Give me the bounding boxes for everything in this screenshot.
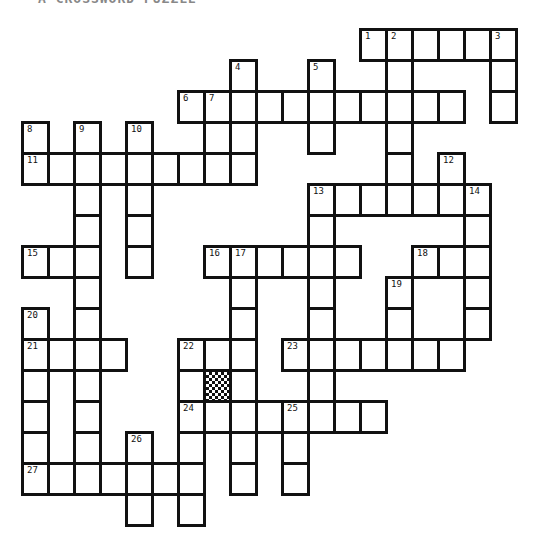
crossword-cell[interactable]: 14	[463, 183, 492, 217]
crossword-cell[interactable]	[385, 59, 414, 93]
crossword-cell[interactable]	[307, 369, 336, 403]
crossword-cell[interactable]	[73, 183, 102, 217]
crossword-cell[interactable]	[255, 245, 284, 279]
crossword-cell[interactable]	[177, 493, 206, 527]
crossword-cell[interactable]	[463, 307, 492, 341]
crossword-cell[interactable]	[99, 338, 128, 372]
crossword-cell[interactable]	[333, 400, 362, 434]
crossword-cell[interactable]	[73, 400, 102, 434]
crossword-cell[interactable]	[333, 245, 362, 279]
crossword-cell[interactable]	[281, 431, 310, 465]
crossword-cell[interactable]	[359, 90, 388, 124]
crossword-cell[interactable]: 2	[385, 28, 414, 62]
crossword-cell[interactable]	[281, 245, 310, 279]
crossword-cell[interactable]	[229, 90, 258, 124]
crossword-cell[interactable]	[359, 183, 388, 217]
crossword-cell[interactable]: 11	[21, 152, 50, 186]
crossword-cell[interactable]: 23	[281, 338, 310, 372]
crossword-cell[interactable]	[411, 90, 440, 124]
crossword-cell[interactable]	[151, 462, 180, 496]
crossword-cell[interactable]	[255, 400, 284, 434]
crossword-cell[interactable]	[125, 462, 154, 496]
crossword-cell[interactable]	[411, 28, 440, 62]
crossword-cell[interactable]	[411, 338, 440, 372]
crossword-cell[interactable]	[255, 90, 284, 124]
crossword-cell[interactable]	[385, 121, 414, 155]
crossword-cell[interactable]	[125, 152, 154, 186]
crossword-cell[interactable]	[203, 338, 232, 372]
crossword-cell[interactable]	[385, 183, 414, 217]
crossword-cell[interactable]	[437, 338, 466, 372]
crossword-cell[interactable]	[73, 462, 102, 496]
crossword-cell[interactable]: 15	[21, 245, 50, 279]
crossword-cell[interactable]: 12	[437, 152, 466, 186]
crossword-cell[interactable]: 24	[177, 400, 206, 434]
crossword-cell[interactable]	[229, 276, 258, 310]
crossword-cell[interactable]	[99, 462, 128, 496]
crossword-cell[interactable]	[463, 245, 492, 279]
crossword-cell[interactable]	[229, 431, 258, 465]
crossword-cell[interactable]: 5	[307, 59, 336, 93]
crossword-cell[interactable]: 20	[21, 307, 50, 341]
crossword-cell[interactable]	[47, 338, 76, 372]
crossword-cell[interactable]	[463, 28, 492, 62]
crossword-cell[interactable]	[73, 152, 102, 186]
crossword-cell[interactable]: 3	[489, 28, 518, 62]
crossword-cell[interactable]	[307, 400, 336, 434]
crossword-cell[interactable]	[281, 462, 310, 496]
crossword-cell[interactable]: 7	[203, 90, 232, 124]
crossword-cell[interactable]: 4	[229, 59, 258, 93]
crossword-cell[interactable]	[229, 400, 258, 434]
crossword-cell[interactable]	[229, 152, 258, 186]
crossword-cell[interactable]: 1	[359, 28, 388, 62]
crossword-cell[interactable]	[73, 276, 102, 310]
crossword-cell[interactable]	[229, 121, 258, 155]
crossword-cell[interactable]	[359, 400, 388, 434]
crossword-cell[interactable]	[47, 152, 76, 186]
crossword-cell[interactable]	[229, 338, 258, 372]
crossword-cell[interactable]	[73, 245, 102, 279]
crossword-cell[interactable]	[125, 183, 154, 217]
crossword-cell[interactable]	[385, 90, 414, 124]
crossword-cell[interactable]	[73, 307, 102, 341]
crossword-cell[interactable]	[437, 245, 466, 279]
crossword-cell[interactable]	[125, 214, 154, 248]
crossword-cell[interactable]	[203, 152, 232, 186]
crossword-cell[interactable]	[281, 90, 310, 124]
crossword-cell[interactable]: 6	[177, 90, 206, 124]
crossword-cell[interactable]: 17	[229, 245, 258, 279]
crossword-cell[interactable]	[73, 431, 102, 465]
crossword-cell[interactable]	[21, 431, 50, 465]
crossword-cell[interactable]	[463, 276, 492, 310]
crossword-cell[interactable]	[307, 307, 336, 341]
crossword-cell[interactable]	[333, 90, 362, 124]
crossword-cell[interactable]: 16	[203, 245, 232, 279]
crossword-cell[interactable]	[437, 28, 466, 62]
crossword-cell[interactable]	[177, 369, 206, 403]
crossword-cell[interactable]	[73, 214, 102, 248]
crossword-cell[interactable]	[203, 400, 232, 434]
crossword-cell[interactable]	[489, 90, 518, 124]
crossword-cell[interactable]	[307, 90, 336, 124]
crossword-cell[interactable]	[47, 462, 76, 496]
crossword-cell[interactable]: 9	[73, 121, 102, 155]
crossword-cell[interactable]	[359, 338, 388, 372]
crossword-cell[interactable]	[489, 59, 518, 93]
crossword-cell[interactable]	[333, 183, 362, 217]
crossword-cell[interactable]	[177, 462, 206, 496]
crossword-cell[interactable]	[385, 338, 414, 372]
crossword-cell[interactable]	[411, 183, 440, 217]
crossword-cell[interactable]	[437, 183, 466, 217]
crossword-cell[interactable]	[307, 338, 336, 372]
crossword-cell[interactable]	[307, 276, 336, 310]
crossword-cell[interactable]	[437, 90, 466, 124]
crossword-cell[interactable]	[47, 245, 76, 279]
crossword-cell[interactable]	[151, 152, 180, 186]
crossword-cell[interactable]: 25	[281, 400, 310, 434]
crossword-cell[interactable]	[73, 338, 102, 372]
crossword-cell[interactable]	[385, 307, 414, 341]
crossword-cell[interactable]: 27	[21, 462, 50, 496]
crossword-cell[interactable]	[21, 369, 50, 403]
crossword-cell[interactable]	[229, 462, 258, 496]
crossword-cell[interactable]: 26	[125, 431, 154, 465]
